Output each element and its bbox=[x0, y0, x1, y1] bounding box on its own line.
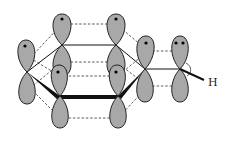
lone-pair-dot bbox=[181, 41, 184, 44]
electron-dot bbox=[23, 44, 26, 47]
orbital-lobe-top bbox=[51, 65, 67, 96]
hydrogen-label: H bbox=[208, 76, 218, 89]
ring-bonds bbox=[27, 45, 180, 100]
electron-dot bbox=[114, 17, 117, 20]
electron-dot bbox=[114, 70, 117, 73]
orbital-lobe-bottom bbox=[110, 96, 127, 128]
electron-dot bbox=[60, 17, 63, 20]
orbital-diagram: H bbox=[0, 0, 232, 144]
orbital-lobe-bottom bbox=[137, 69, 154, 102]
orbital-ring-left bbox=[18, 40, 35, 104]
orbital-lobe-bottom bbox=[52, 96, 69, 128]
electron-dot bbox=[56, 70, 59, 73]
lone-pair-dot bbox=[174, 41, 177, 44]
orbital-lobe-top bbox=[172, 36, 189, 69]
electron-dot bbox=[144, 41, 147, 44]
front-bond bbox=[60, 95, 118, 99]
orbital-lobe-bottom bbox=[172, 69, 189, 102]
orbital-lobe-top bbox=[18, 40, 35, 72]
